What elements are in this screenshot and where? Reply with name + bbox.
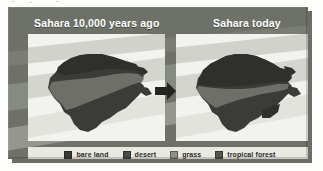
legend-label: tropical forest <box>227 151 275 158</box>
legend: bare land desert grass tropical forest <box>28 147 308 159</box>
panel-title-past: Sahara 10,000 years ago <box>34 17 159 29</box>
africa-map-today <box>188 42 306 137</box>
legend-item-desert: desert <box>123 151 157 159</box>
legend-label: bare land <box>76 151 108 158</box>
legend-swatch-icon <box>170 151 178 159</box>
scan-speck <box>12 1 14 2</box>
legend-swatch-icon <box>64 151 72 159</box>
legend-swatch-icon <box>215 151 223 159</box>
scan-speck <box>56 1 58 2</box>
figure-plate: Sahara 10,000 years ago Sahara today <box>8 7 308 159</box>
legend-swatch-icon <box>123 151 131 159</box>
legend-item-bare-land: bare land <box>64 151 108 159</box>
map-panel-past <box>28 34 165 141</box>
legend-label: grass <box>182 151 201 158</box>
scan-speck <box>30 2 32 3</box>
right-arrow-icon <box>154 79 177 103</box>
panel-title-today: Sahara today <box>213 17 281 29</box>
legend-label: desert <box>135 151 157 158</box>
map-panel-today <box>176 34 308 141</box>
africa-map-past <box>40 42 158 137</box>
legend-item-grass: grass <box>170 151 201 159</box>
figure-root: Sahara 10,000 years ago Sahara today <box>0 0 323 171</box>
legend-item-tropical-forest: tropical forest <box>215 151 275 159</box>
